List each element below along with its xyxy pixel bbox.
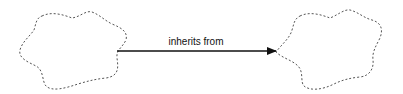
- left-cloud-node[interactable]: [20, 12, 127, 89]
- right-cloud-node[interactable]: [276, 10, 381, 89]
- edge-label: inherits from: [168, 36, 223, 47]
- inheritance-diagram: inherits from: [0, 0, 403, 94]
